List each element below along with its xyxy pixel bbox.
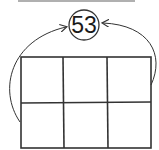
right-arrow [103, 23, 156, 85]
target-number: 53 [71, 12, 97, 38]
grid [21, 57, 151, 148]
left-arrow [10, 27, 66, 122]
diagram: 53 [0, 0, 159, 150]
